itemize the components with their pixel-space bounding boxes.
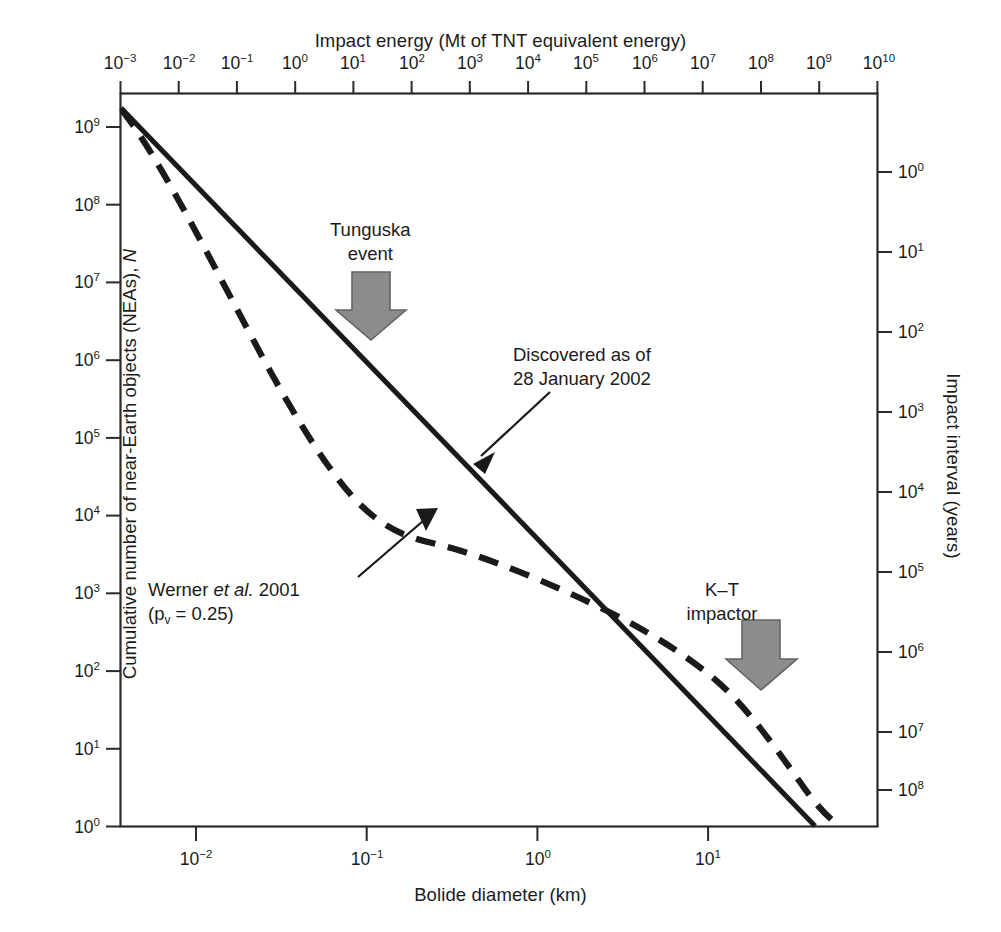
left-tick-label: 101: [74, 739, 100, 760]
left-tick-label: 106: [74, 350, 100, 371]
left-tick-label: 109: [74, 117, 100, 138]
bottom-tick-label: 100: [525, 849, 551, 870]
right-tick-label: 103: [898, 402, 924, 423]
annotation-werner-line2: (pv = 0.25): [148, 602, 300, 626]
annotation-kt-line1: K–T: [687, 578, 758, 602]
annotation-werner-albedo-post: = 0.25): [170, 603, 233, 624]
top-tick-label: 105: [573, 53, 599, 74]
chart-canvas: [0, 0, 1001, 932]
right-tick-label: 105: [898, 562, 924, 583]
bottom-axis-title: Bolide diameter (km): [0, 884, 1001, 906]
annotation-discovered-line1: Discovered as of: [513, 343, 651, 367]
right-axis-title: Impact interval (years): [942, 186, 964, 746]
top-tick-label: 1010: [863, 53, 895, 74]
top-tick-label: 10−1: [221, 53, 254, 74]
plot-frame: [121, 94, 878, 827]
left-tick-label: 102: [74, 661, 100, 682]
left-tick-label: 104: [74, 505, 100, 526]
annotation-werner-line1: Werner et al. 2001: [148, 578, 300, 602]
top-tick-label: 103: [457, 53, 483, 74]
top-tick-label: 100: [282, 53, 308, 74]
annotation-werner-post: 2001: [254, 579, 300, 600]
bottom-tick-label: 10−2: [180, 849, 213, 870]
series-discovered-2002-curve: [121, 108, 815, 826]
right-tick-label: 107: [898, 722, 924, 743]
discovered-leader-arrow-icon: [473, 392, 550, 474]
top-tick-label: 102: [399, 53, 425, 74]
right-tick-label: 104: [898, 482, 924, 503]
right-tick-label: 102: [898, 322, 924, 343]
right-tick-label: 101: [898, 242, 924, 263]
annotation-tunguska-line1: Tunguska: [330, 218, 411, 242]
top-axis-ticks: [121, 81, 878, 94]
right-tick-label: 106: [898, 642, 924, 663]
chart-figure: Impact energy (Mt of TNT equivalent ener…: [0, 0, 1001, 932]
annotation-werner-pre: Werner: [148, 579, 213, 600]
top-tick-label: 106: [632, 53, 658, 74]
top-tick-label: 104: [515, 53, 541, 74]
top-tick-label: 107: [690, 53, 716, 74]
left-tick-label: 105: [74, 428, 100, 449]
left-axis-title: Cumulative number of near-Earth objects …: [119, 84, 141, 844]
tunguska-down-arrow-icon: [336, 272, 406, 340]
top-tick-label: 101: [340, 53, 366, 74]
left-axis-title-text: Cumulative number of near-Earth objects …: [119, 262, 140, 679]
top-tick-label: 108: [748, 53, 774, 74]
annotation-discovered-as-of: Discovered as of 28 January 2002: [513, 343, 651, 392]
right-tick-label: 108: [898, 780, 924, 801]
kt-down-arrow-icon: [726, 620, 797, 690]
annotation-kt-line2: impactor: [687, 602, 758, 626]
left-tick-label: 107: [74, 272, 100, 293]
annotation-tunguska-event: Tunguska event: [330, 218, 411, 267]
left-tick-label: 100: [74, 817, 100, 838]
annotation-tunguska-line2: event: [330, 242, 411, 266]
left-tick-label: 108: [74, 195, 100, 216]
bottom-tick-label: 101: [695, 849, 721, 870]
annotation-werner-italic: et al.: [213, 579, 253, 600]
top-axis-title: Impact energy (Mt of TNT equivalent ener…: [0, 30, 1001, 52]
annotation-discovered-line2: 28 January 2002: [513, 367, 651, 391]
top-tick-label: 10−3: [104, 53, 137, 74]
annotation-werner-et-al-2001: Werner et al. 2001 (pv = 0.25): [148, 578, 300, 627]
bottom-tick-label: 10−1: [351, 849, 384, 870]
annotation-werner-albedo-sub: v: [164, 613, 170, 627]
right-axis-ticks: [878, 172, 893, 790]
left-axis-title-symbol: N: [119, 249, 140, 262]
top-tick-label: 10−2: [163, 53, 196, 74]
bottom-axis-ticks: [196, 827, 708, 842]
right-tick-label: 100: [898, 162, 924, 183]
left-tick-label: 103: [74, 583, 100, 604]
top-tick-label: 109: [806, 53, 832, 74]
annotation-werner-albedo-pre: (p: [148, 603, 164, 624]
annotation-kt-impactor: K–T impactor: [687, 578, 758, 627]
